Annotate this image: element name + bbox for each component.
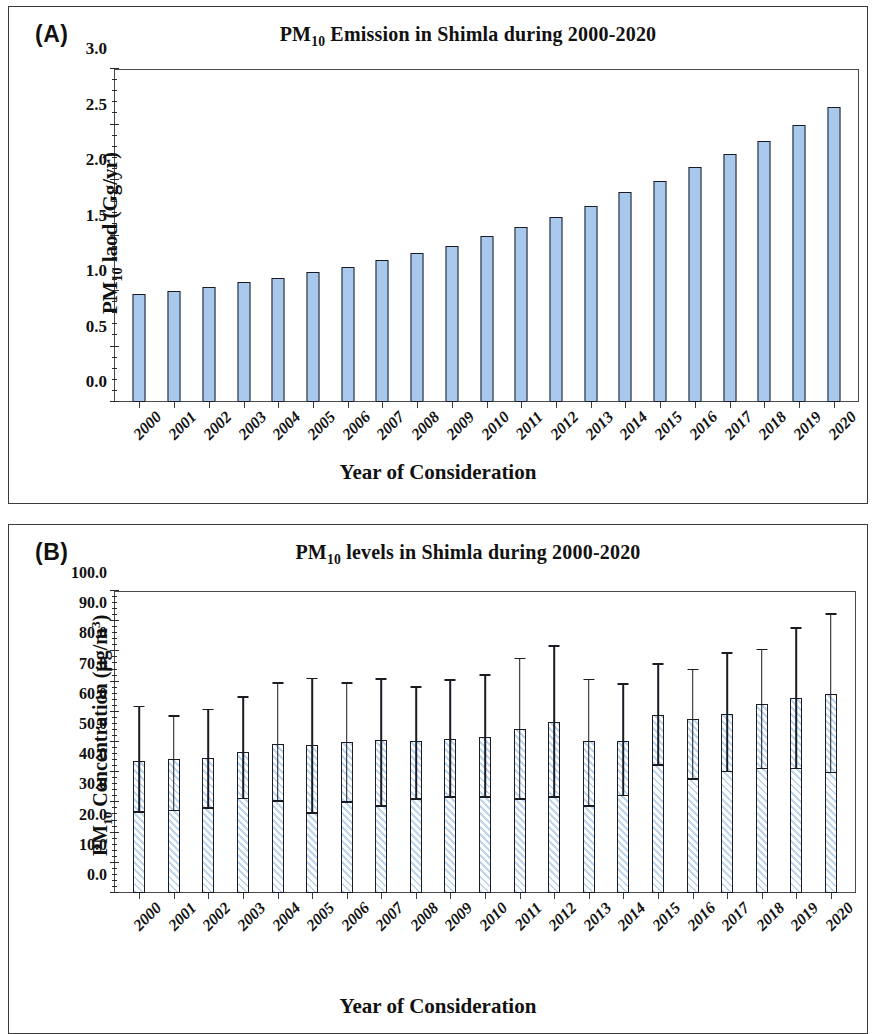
bar (619, 192, 632, 402)
x-tick-slot: 2004 (260, 893, 295, 963)
bar-slot (329, 591, 364, 893)
bar (723, 154, 736, 402)
x-tick-mark (209, 402, 210, 408)
bar-slot (608, 69, 643, 402)
error-bar (450, 681, 452, 798)
error-bar-cap-lower (376, 805, 387, 807)
bar (688, 167, 701, 402)
x-tick-slot: 2000 (122, 893, 157, 963)
x-tick-mark (417, 402, 418, 408)
panel-b: (B) PM10 levels in Shimla during 2000-20… (8, 524, 868, 1034)
y-tick-label: 20.0 (79, 805, 107, 823)
error-bar-cap-upper (652, 663, 663, 665)
bar-slot (572, 591, 607, 893)
bar-slot (434, 69, 469, 402)
error-bar-cap-upper (480, 674, 491, 676)
bar-slot (469, 69, 504, 402)
y-tick-label: 2.0 (86, 150, 107, 170)
x-tick-mark (554, 893, 555, 899)
bar-slot (226, 591, 261, 893)
error-bar (277, 684, 279, 802)
error-bar-cap-lower (791, 768, 802, 770)
x-tick-slot: 2012 (537, 893, 572, 963)
error-bar-cap-upper (307, 678, 318, 680)
bar-slot (433, 591, 468, 893)
error-bar-cap-lower (238, 798, 249, 800)
error-bar-cap-upper (756, 649, 767, 651)
error-bar-cap-lower (722, 771, 733, 773)
x-tick-slot: 2001 (157, 893, 192, 963)
x-tick-slot: 2005 (295, 893, 330, 963)
error-bar-cap-lower (549, 796, 560, 798)
bar-slot (296, 69, 331, 402)
bar (445, 246, 458, 403)
x-tick-mark (556, 402, 557, 408)
error-bar (242, 698, 244, 799)
y-tick-label: 50.0 (79, 715, 107, 733)
error-bar-cap-upper (514, 658, 525, 660)
error-bar (415, 688, 417, 800)
x-tick-slot: 2006 (329, 893, 364, 963)
error-bar-cap-upper (445, 679, 456, 681)
bar-slot (191, 591, 226, 893)
x-axis-labels-b: 2000200120022003200420052006200720082009… (114, 893, 856, 963)
bar (827, 107, 840, 402)
bar-slot (157, 591, 192, 893)
error-bar (761, 650, 763, 769)
error-bar-cap-lower (341, 801, 352, 803)
error-bar (588, 680, 590, 806)
bar-slot (122, 591, 157, 893)
x-tick-mark (244, 402, 245, 408)
plot-area-b: PM10 Concentration (µg/m3) 0.010.020.030… (114, 591, 856, 893)
x-tick-mark (660, 402, 661, 408)
x-tick-slot: 2016 (675, 893, 710, 963)
error-bar (553, 647, 555, 798)
error-bar (138, 707, 140, 813)
error-bar-cap-upper (168, 715, 179, 717)
plot-area-a: PM10 laod (Gg/yr) 0.00.51.01.52.02.53.0 … (114, 69, 859, 402)
error-bar (173, 717, 175, 812)
bar-slot (365, 69, 400, 402)
x-tick-mark (695, 402, 696, 408)
x-tick-mark (764, 402, 765, 408)
error-bar-cap-upper (272, 682, 283, 684)
error-bar (623, 685, 625, 796)
bar (237, 282, 250, 402)
x-tick-mark (174, 893, 175, 899)
x-tick-slot: 2018 (744, 893, 779, 963)
error-bar-cap-lower (168, 810, 179, 812)
bar-slot (261, 69, 296, 402)
x-tick-mark (450, 893, 451, 899)
y-tick-label: 0.0 (87, 866, 107, 884)
bar-slot (468, 591, 503, 893)
error-bar (311, 679, 313, 813)
x-tick-mark (313, 402, 314, 408)
bar-slot (400, 69, 435, 402)
y-tick-label: 2.5 (86, 94, 107, 114)
y-tick-label: 0.5 (86, 316, 107, 336)
y-tick-label: 70.0 (79, 654, 107, 672)
error-bar-cap-lower (203, 807, 214, 809)
x-tick-slot: 2011 (502, 893, 537, 963)
x-tick-mark (521, 402, 522, 408)
bar (584, 206, 597, 402)
error-bar-cap-upper (341, 682, 352, 684)
bar-slot (747, 69, 782, 402)
error-bar-cap-upper (549, 645, 560, 647)
y-tick-label: 40.0 (79, 745, 107, 763)
bar (758, 141, 771, 402)
bar (654, 181, 667, 402)
x-tick-mark (693, 893, 694, 899)
bar (341, 267, 354, 402)
error-bar-cap-lower (756, 768, 767, 770)
bar-slot (226, 69, 261, 402)
x-tick-mark (487, 402, 488, 408)
x-tick-mark (520, 893, 521, 899)
bar (202, 287, 215, 402)
bar-slot (502, 591, 537, 893)
x-tick-mark (589, 893, 590, 899)
y-tick-label: 100.0 (71, 564, 107, 582)
y-tick-label: 60.0 (79, 684, 107, 702)
error-bar-cap-lower (445, 796, 456, 798)
